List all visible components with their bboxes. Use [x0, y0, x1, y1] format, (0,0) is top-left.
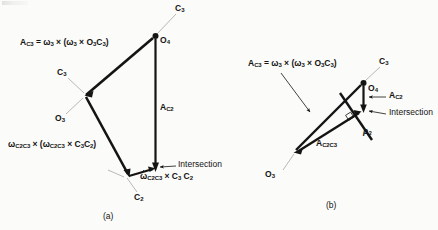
caption-panel-b: (b) — [326, 200, 336, 210]
label-ac2-b: AC2 — [389, 91, 403, 100]
label-o3-b: O3 — [265, 170, 275, 179]
label-c2-a: C2 — [134, 193, 143, 202]
arrowhead-ac2-a — [152, 163, 159, 173]
node-o4-a — [153, 33, 159, 39]
leader-c3-b — [365, 67, 380, 81]
label-c3-b: C3 — [379, 57, 388, 66]
figure-canvas: AC3 = ω3 × (ω3 × O3C3) ωC2C3 × (ωC2C3 × … — [0, 0, 438, 230]
vector-omega-c2c3-a — [86, 97, 128, 174]
label-o4-b: O4 — [368, 84, 378, 93]
tick-c2-a — [108, 170, 124, 177]
label-ac2c3-b: AC2C3 — [316, 139, 337, 148]
label-o4-a: O4 — [160, 36, 170, 45]
label-o3-a: O3 — [55, 114, 65, 123]
leader-c3-mid-a — [68, 78, 84, 93]
label-intersection-a: Intersection — [178, 160, 222, 169]
omega-dot-accent: ω — [140, 172, 147, 181]
equation-ac3-b: AC3 = ω3 × (ω3 × O3C3) — [248, 59, 337, 68]
leader-o3-a — [66, 98, 83, 114]
diagram-vectors — [0, 0, 438, 230]
label-rho3-b: ρ3 — [363, 127, 371, 136]
equation-alpha-c3c2-a: ωC2C3 × C3 C2 — [140, 172, 193, 181]
equation-ac3-a: AC3 = ω3 × (ω3 × O3C3) — [20, 38, 109, 47]
leader-o3-b — [283, 154, 294, 170]
pointer-intersection-b — [369, 111, 386, 114]
leader-c2-a — [127, 178, 137, 192]
leader-c3-top-a — [157, 14, 176, 34]
node-o4-b — [361, 80, 367, 86]
label-c3-top-a: C3 — [175, 4, 184, 13]
pointer-intersection-a — [160, 166, 176, 167]
equation-omega-c2c3-a: ωC2C3 × (ωC2C3 × C3C2) — [8, 140, 96, 149]
caption-panel-a: (a) — [103, 211, 113, 221]
label-intersection-b: Intersection — [389, 108, 433, 117]
label-ac2-a: AC2 — [160, 103, 174, 112]
pointer-ac3-b — [281, 73, 310, 112]
label-c3-mid-a: C3 — [57, 68, 66, 77]
